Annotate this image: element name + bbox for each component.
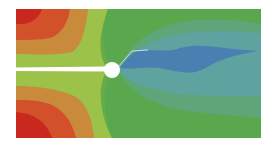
contour-bands [16,9,261,138]
crack-tip-circle [104,62,120,78]
contour-field-plot [0,0,274,149]
